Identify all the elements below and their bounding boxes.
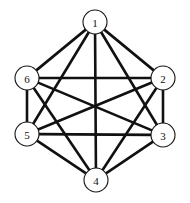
graph-node-2[interactable]: 2 <box>151 66 175 90</box>
graph-edge-3-4 <box>106 142 153 174</box>
graph-node-6[interactable]: 6 <box>15 66 39 90</box>
graph-node-4[interactable]: 4 <box>84 168 108 192</box>
edge-layer <box>27 30 163 174</box>
graph-node-3[interactable]: 3 <box>151 123 175 147</box>
node-label-1: 1 <box>92 17 98 29</box>
graph-node-1[interactable]: 1 <box>83 10 107 34</box>
graph-edge-1-4 <box>95 34 96 168</box>
node-label-4: 4 <box>93 175 99 187</box>
node-label-5: 5 <box>24 129 30 141</box>
node-label-2: 2 <box>160 73 166 85</box>
node-label-6: 6 <box>24 73 30 85</box>
graph-figure: 123456 <box>0 0 190 203</box>
graph-edge-4-5 <box>37 141 86 174</box>
node-label-3: 3 <box>160 130 166 142</box>
graph-edge-3-5 <box>39 134 151 135</box>
graph-canvas: 123456 <box>0 0 190 203</box>
graph-node-5[interactable]: 5 <box>15 122 39 146</box>
